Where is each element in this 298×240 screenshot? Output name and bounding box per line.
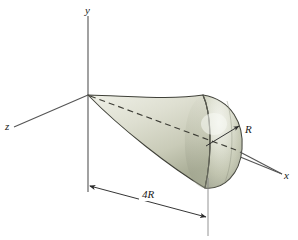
figure-canvas: R 4R y z x bbox=[0, 0, 298, 240]
cone-solid bbox=[88, 92, 248, 192]
cone-figure: R 4R y z x bbox=[0, 0, 298, 240]
length-dimension: 4R bbox=[90, 178, 208, 236]
x-axis-label: x bbox=[283, 169, 289, 181]
cap-highlight bbox=[201, 113, 227, 135]
z-axis-label: z bbox=[4, 120, 10, 132]
y-axis-label: y bbox=[84, 4, 90, 16]
x-axis-line-front bbox=[240, 152, 282, 174]
dimension-label-4r: 4R bbox=[142, 188, 155, 200]
radius-label: R bbox=[244, 123, 252, 135]
z-axis-line bbox=[14, 95, 88, 127]
